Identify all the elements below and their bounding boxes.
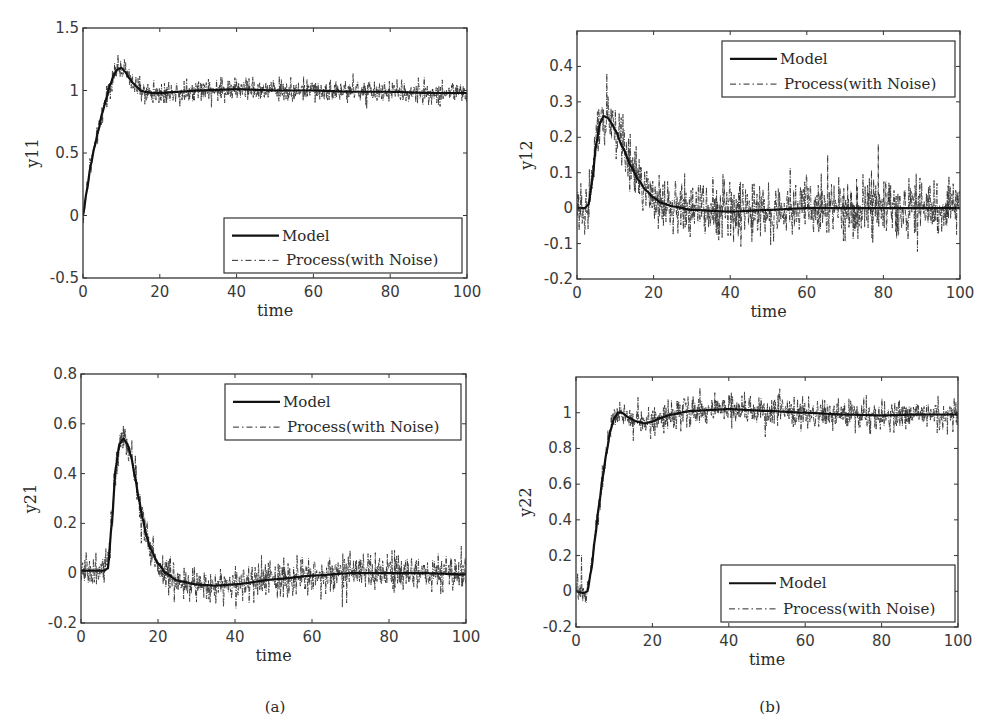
y-tick-label: 0	[67, 564, 77, 582]
x-axis-label-y11: time	[257, 301, 293, 320]
x-tick-label: 60	[797, 284, 816, 302]
y-tick-label: 1	[69, 82, 79, 100]
y-tick-label: 0.6	[53, 415, 77, 433]
x-tick-label: 20	[150, 283, 169, 301]
x-tick-label: 40	[225, 628, 244, 646]
x-tick-label: 40	[719, 632, 738, 650]
x-tick-label: 80	[379, 628, 398, 646]
subplot-y22: 020406080100-0.200.20.40.60.81timey22Mod…	[516, 377, 972, 669]
legend-y22: ModelProcess(with Noise)	[721, 565, 955, 622]
y-tick-label: -0.2	[543, 618, 572, 636]
x-tick-label: 0	[78, 283, 88, 301]
y-tick-label: 0.2	[548, 547, 572, 565]
subplot-y21: 020406080100-0.200.20.40.60.8timey21Mode…	[21, 365, 480, 665]
legend-process-label: Process(with Noise)	[784, 75, 936, 93]
y-tick-label: 0	[562, 582, 572, 600]
x-tick-label: 0	[571, 632, 581, 650]
x-tick-label: 60	[302, 628, 321, 646]
x-tick-label: 20	[148, 628, 167, 646]
process-series-y12	[577, 74, 960, 252]
legend-process-label: Process(with Noise)	[783, 600, 935, 618]
x-tick-label: 40	[721, 284, 740, 302]
x-tick-label: 100	[452, 628, 481, 646]
y-tick-label: 0	[69, 207, 79, 225]
x-tick-label: 40	[227, 283, 246, 301]
legend-process-label: Process(with Noise)	[286, 251, 438, 269]
x-tick-label: 80	[381, 283, 400, 301]
subplot-y12: 020406080100-0.2-0.100.10.20.30.4timey12…	[517, 31, 974, 321]
x-axis-label-y22: time	[749, 650, 785, 669]
y-axis-label-y11: y11	[23, 138, 42, 168]
y-tick-label: 0.2	[549, 128, 573, 146]
legend-model-label: Model	[283, 393, 331, 411]
x-tick-label: 0	[76, 628, 86, 646]
y-tick-label: 0.4	[548, 511, 572, 529]
legend-process-label: Process(with Noise)	[287, 418, 439, 436]
y-tick-label: 1	[562, 404, 572, 422]
y-axis-label-y12: y12	[517, 140, 536, 170]
caption-a: (a)	[265, 698, 286, 716]
y-tick-label: -0.5	[50, 269, 79, 287]
y-tick-label: 0.2	[53, 514, 77, 532]
x-tick-label: 80	[874, 284, 893, 302]
x-tick-label: 100	[453, 283, 482, 301]
y-tick-label: 0.6	[548, 475, 572, 493]
y-tick-label: 0.4	[549, 57, 573, 75]
y-tick-label: 0.4	[53, 465, 77, 483]
x-axis-label-y21: time	[255, 646, 291, 665]
plot-area-y11	[83, 55, 467, 224]
y-tick-label: 0.3	[549, 93, 573, 111]
legend-y21: ModelProcess(with Noise)	[225, 384, 461, 440]
legend-model-label: Model	[779, 574, 827, 592]
x-tick-label: 100	[946, 284, 975, 302]
figure-canvas: 020406080100-0.500.511.5timey11ModelProc…	[0, 0, 988, 723]
legend-model-label: Model	[282, 227, 330, 245]
legend-y12: ModelProcess(with Noise)	[722, 41, 955, 97]
x-axis-label-y12: time	[750, 302, 786, 321]
x-tick-label: 20	[644, 284, 663, 302]
y-tick-label: 1.5	[55, 19, 79, 37]
x-tick-label: 20	[643, 632, 662, 650]
x-tick-label: 60	[304, 283, 323, 301]
x-tick-label: 0	[572, 284, 582, 302]
legend-model-label: Model	[780, 50, 828, 68]
y-tick-label: -0.1	[544, 235, 573, 253]
plot-area-y21	[81, 425, 466, 608]
y-tick-label: -0.2	[544, 270, 573, 288]
x-tick-label: 60	[796, 632, 815, 650]
caption-b: (b)	[759, 698, 780, 716]
process-series-y11	[83, 55, 467, 224]
x-tick-label: 80	[872, 632, 891, 650]
legend-y11: ModelProcess(with Noise)	[224, 218, 462, 273]
subplot-y11: 020406080100-0.500.511.5timey11ModelProc…	[23, 19, 481, 320]
y-axis-label-y21: y21	[21, 484, 40, 514]
figure: 020406080100-0.500.511.5timey11ModelProc…	[0, 0, 988, 723]
y-tick-label: 0.1	[549, 164, 573, 182]
y-tick-label: -0.2	[48, 614, 77, 632]
y-tick-label: 0.8	[548, 439, 572, 457]
y-tick-label: 0.5	[55, 144, 79, 162]
plot-area-y12	[577, 74, 960, 252]
y-tick-label: 0.8	[53, 365, 77, 383]
y-axis-label-y22: y22	[516, 487, 535, 517]
process-series-y21	[81, 425, 466, 608]
y-tick-label: 0	[563, 199, 573, 217]
model-series-y11	[83, 68, 467, 216]
x-tick-label: 100	[944, 632, 973, 650]
